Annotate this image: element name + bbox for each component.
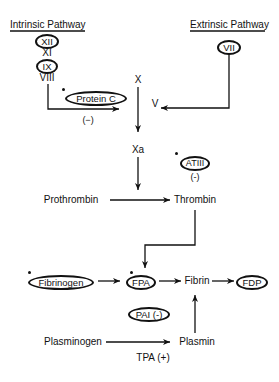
tpa-label: TPA (+) — [136, 352, 169, 364]
fibrin-label: Fibrin — [184, 275, 209, 287]
fpa-node: FPA — [126, 275, 156, 290]
intrinsic-pathway-title: Intrinsic Pathway — [10, 19, 86, 31]
factor-xa-label: Xa — [132, 144, 144, 156]
marker-dot — [130, 271, 133, 274]
plasmin-label: Plasmin — [179, 336, 215, 348]
pai-node: PAI (-) — [128, 307, 170, 322]
factor-vii-node: VII — [217, 40, 241, 55]
factor-viii-label: VIII — [39, 72, 54, 84]
extrinsic-pathway-title: Extrinsic Pathway — [190, 19, 269, 31]
atiii-effect: (-) — [191, 171, 200, 183]
prothrombin-label: Prothrombin — [44, 194, 98, 206]
plasminogen-label: Plasminogen — [44, 336, 102, 348]
factor-xi-label: XI — [42, 47, 51, 59]
protein-c-effect: (−) — [82, 114, 93, 126]
factor-v-label: V — [152, 98, 159, 110]
marker-dot — [175, 152, 178, 155]
marker-dot — [28, 271, 31, 274]
atiii-node: ATIII — [180, 156, 210, 171]
fdp-node: FDP — [236, 275, 268, 290]
marker-dot — [62, 88, 65, 91]
factor-x-label: X — [135, 74, 142, 86]
protein-c-node: Protein C — [65, 91, 127, 106]
thrombin-label: Thrombin — [174, 194, 216, 206]
fibrinogen-node: Fibrinogen — [28, 275, 94, 290]
